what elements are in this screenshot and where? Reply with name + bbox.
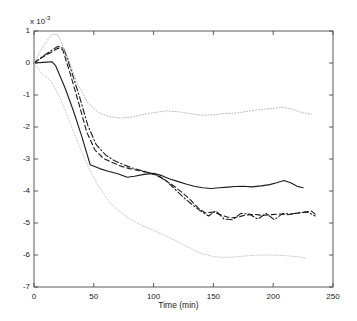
series-line-upper-confidence-dotted — [34, 34, 311, 118]
series-line-dashdot-estimate — [34, 46, 315, 219]
axes-frame — [34, 31, 333, 287]
axis-tick-marks — [34, 31, 333, 287]
series-line-mean-solid — [34, 62, 303, 189]
data-series-layer — [34, 34, 316, 258]
y-tick-label: -1 — [8, 90, 30, 99]
y-tick-label: -6 — [8, 250, 30, 259]
y-tick-label: 0 — [8, 58, 30, 67]
y-tick-label: -2 — [8, 122, 30, 131]
x-axis-title: Time (min) — [0, 300, 357, 310]
figure-canvas: x 10-3 10-1-2-3-4-5-6-7 050100150200250 … — [0, 0, 357, 321]
series-line-lower-confidence-dotted — [34, 63, 307, 258]
y-tick-label: -4 — [8, 186, 30, 195]
y-tick-label: 1 — [8, 26, 30, 35]
chart-plot-area — [0, 0, 357, 321]
y-tick-label: -7 — [8, 282, 30, 291]
series-line-dashed-estimate — [34, 48, 316, 218]
y-tick-label: -3 — [8, 154, 30, 163]
y-tick-label: -5 — [8, 218, 30, 227]
